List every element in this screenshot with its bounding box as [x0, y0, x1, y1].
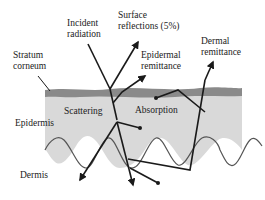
stratum-line2: corneum [13, 61, 46, 72]
surface-line1: Surface [118, 10, 179, 21]
dermal-remittance-ray [205, 62, 213, 80]
epidermal-line2: remittance [141, 61, 181, 72]
incident-ray [88, 44, 110, 89]
label-dermal-remittance: Dermal remittance [201, 36, 241, 58]
dermal-line1: Dermal [201, 36, 241, 47]
surface-line2: reflections (5%) [118, 21, 179, 32]
label-scattering: Scattering [64, 106, 103, 117]
epidermal-line1: Epidermal [141, 50, 181, 61]
incident-line2: radiation [67, 29, 101, 40]
stratum-line1: Stratum [13, 50, 46, 61]
label-absorption: Absorption [135, 105, 178, 116]
label-surface-reflections: Surface reflections (5%) [118, 10, 179, 32]
label-incident-radiation: Incident radiation [67, 18, 101, 40]
incident-line1: Incident [67, 18, 101, 29]
label-dermis: Dermis [20, 170, 48, 181]
surface-reflection-ray [110, 42, 138, 89]
dermal-line2: remittance [201, 47, 241, 58]
label-stratum-corneum: Stratum corneum [13, 50, 46, 72]
label-epidermal-remittance: Epidermal remittance [141, 50, 181, 72]
label-epidermis: Epidermis [15, 118, 54, 129]
stratum-corneum-layer [45, 87, 242, 97]
